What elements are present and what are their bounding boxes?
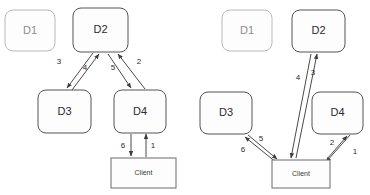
edge-label-right-2: 2 [330,138,335,147]
node-d1-right-label: D1 [240,24,254,36]
edge-label-right-5: 5 [259,134,264,143]
node-d3-left[interactable]: D3 [38,90,91,133]
edge-label-right-1: 1 [353,147,358,156]
sequence-interaction-diagram: D1 D2 D3 D4 Client 3 4 5 2 [0,0,370,195]
node-d1-left-label: D1 [23,24,37,36]
edge-label-left-1: 1 [151,141,156,150]
node-d4-right[interactable]: D4 [312,92,363,134]
edge-label-right-4: 4 [296,73,301,82]
edge-d2-to-d3 [67,53,93,88]
node-d3-right[interactable]: D3 [200,92,252,134]
edge-label-right-3: 3 [311,68,316,77]
node-d2-right-label: D2 [311,24,325,36]
node-d4-left[interactable]: D4 [114,90,166,133]
edge-label-left-5: 5 [111,63,116,72]
edge-label-left-3: 3 [57,57,62,66]
node-d4-left-label: D4 [133,105,147,117]
edge-label-left-6: 6 [121,141,126,150]
node-client-left[interactable]: Client [111,158,176,188]
node-d3-right-label: D3 [219,106,233,118]
edge-label-right-6: 6 [241,145,246,154]
node-d2-left-label: D2 [93,23,107,35]
node-d1-left[interactable]: D1 [5,10,55,51]
node-client-left-label: Client [135,169,153,176]
node-d3-left-label: D3 [57,105,71,117]
right-panel: D1 D2 D3 D4 Client 3 4 5 6 2 [200,10,363,188]
edge-d2-to-client-right [291,54,311,158]
left-panel: D1 D2 D3 D4 Client 3 4 5 2 [5,8,176,188]
node-d1-right[interactable]: D1 [222,10,272,51]
diagram-canvas: D1 D2 D3 D4 Client 3 4 5 2 [0,0,370,195]
edge-label-left-4: 4 [83,63,88,72]
node-client-right[interactable]: Client [272,160,330,188]
node-d2-left[interactable]: D2 [73,8,128,52]
node-client-right-label: Client [292,170,310,177]
node-d4-right-label: D4 [330,106,344,118]
node-d2-right[interactable]: D2 [292,10,345,52]
edge-label-left-2: 2 [137,57,142,66]
